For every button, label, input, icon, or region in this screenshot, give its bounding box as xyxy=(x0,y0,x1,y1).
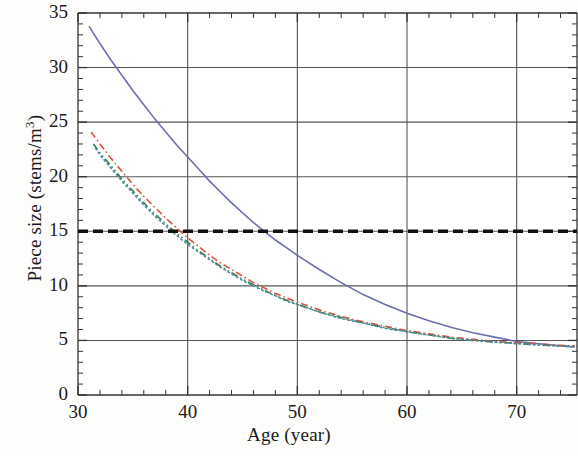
chart-plot-area xyxy=(0,0,578,456)
x-tick-label: 30 xyxy=(55,401,101,423)
x-tick-label: 40 xyxy=(165,401,211,423)
y-tick-label: 25 xyxy=(22,110,68,132)
y-tick-label: 30 xyxy=(22,56,68,78)
x-axis-title: Age (year) xyxy=(0,424,578,446)
x-tick-label: 60 xyxy=(384,401,430,423)
plot-background xyxy=(78,13,577,395)
y-axis-title-base: Piece size (stems/m xyxy=(24,128,45,282)
y-tick-label: 35 xyxy=(22,1,68,23)
y-tick-label: 15 xyxy=(22,219,68,241)
chart-figure: Piece size (stems/m3) Age (year) 0510152… xyxy=(0,0,578,456)
y-tick-label: 20 xyxy=(22,165,68,187)
x-tick-label: 50 xyxy=(274,401,320,423)
y-tick-label: 5 xyxy=(22,328,68,350)
y-tick-label: 10 xyxy=(22,274,68,296)
x-tick-label: 70 xyxy=(494,401,540,423)
